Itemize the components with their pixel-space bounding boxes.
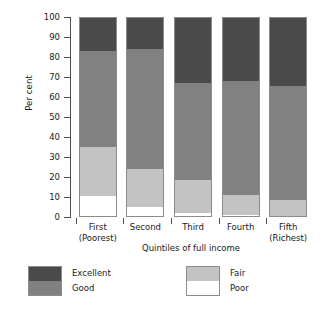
y-tick-mark [64, 57, 70, 58]
legend-label-excellent: Excellent [72, 268, 111, 278]
bar-segment-fair [270, 200, 306, 216]
bar-segment-good [80, 51, 116, 147]
y-tick-label: 40 [30, 133, 60, 141]
y-tick-mark [64, 77, 70, 78]
plot-area: 0102030405060708090100 [72, 17, 310, 217]
x-category-label-line2: (Richest) [255, 233, 321, 244]
y-tick-label: 80 [30, 53, 60, 61]
x-axis-title: Quintiles of full income [72, 243, 310, 253]
y-tick-mark [64, 117, 70, 118]
bar-segment-good [270, 86, 306, 200]
y-tick-label: 50 [30, 113, 60, 121]
y-tick-label: 100 [30, 13, 60, 21]
y-axis-line [70, 17, 71, 218]
x-category-label: Fifth(Richest) [255, 222, 321, 243]
bar-segment-fair [223, 195, 259, 215]
bar-segment-good [223, 81, 259, 195]
y-tick-mark [64, 17, 70, 18]
legend-label-poor: Poor [230, 283, 249, 293]
y-tick-label: 10 [30, 193, 60, 201]
y-tick-mark [64, 137, 70, 138]
swatch-excellent [29, 267, 61, 281]
x-category-label-line1: Third [182, 222, 204, 232]
bar-segment-fair [175, 180, 211, 213]
bar-segment-excellent [175, 18, 211, 83]
bar-segment-poor [223, 215, 259, 216]
bar-segment-excellent [127, 18, 163, 49]
bar-segment-fair [127, 169, 163, 207]
legend-label-fair: Fair [230, 268, 245, 278]
y-tick-mark [64, 37, 70, 38]
legend-label-good: Good [72, 283, 94, 293]
bar-segment-excellent [80, 18, 116, 51]
bar-5 [269, 17, 307, 217]
bar-segment-excellent [270, 18, 306, 86]
x-category-label-line2: (Poorest) [65, 233, 131, 244]
y-tick-label: 30 [30, 153, 60, 161]
bar-2 [126, 17, 164, 217]
bar-segment-good [175, 83, 211, 180]
y-tick-mark [64, 177, 70, 178]
stacked-bar-chart: Per cent 0102030405060708090100 First(Po… [0, 0, 332, 311]
y-tick-mark [64, 157, 70, 158]
bar-1 [79, 17, 117, 217]
y-tick-mark [64, 217, 70, 218]
bar-segment-fair [80, 147, 116, 197]
bar-segment-poor [175, 213, 211, 216]
y-tick-label: 0 [30, 213, 60, 221]
x-category-label-line1: Second [130, 222, 161, 232]
x-category-label-line1: First [89, 222, 107, 232]
chart-legend: Excellent Good Fair Poor [0, 264, 332, 308]
y-tick-mark [64, 197, 70, 198]
swatch-poor [187, 281, 219, 295]
legend-swatch-excellent-good [28, 266, 62, 296]
y-tick-label: 60 [30, 93, 60, 101]
bar-3 [174, 17, 212, 217]
bar-segment-poor [127, 207, 163, 216]
swatch-fair [187, 267, 219, 281]
x-category-label-line1: Fifth [279, 222, 297, 232]
legend-swatch-fair-poor [186, 266, 220, 296]
y-tick-mark [64, 97, 70, 98]
bar-segment-excellent [223, 18, 259, 81]
y-tick-label: 20 [30, 173, 60, 181]
y-tick-label: 70 [30, 73, 60, 81]
bar-segment-poor [80, 196, 116, 216]
x-category-label-line1: Fourth [227, 222, 254, 232]
y-tick-label: 90 [30, 33, 60, 41]
bar-segment-good [127, 49, 163, 170]
bar-4 [222, 17, 260, 217]
swatch-good [29, 281, 61, 295]
